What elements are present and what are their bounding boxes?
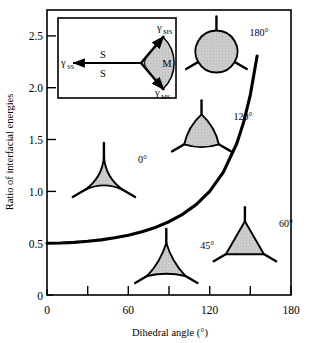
figure-root: 0 0.5 1.0 1.5 2.0 2.5 0 60 120 180 Dihed…: [0, 0, 309, 343]
x-axis-title: Dihedral angle (°): [132, 327, 208, 339]
x-tick-label: 120: [201, 304, 219, 316]
y-tick-label: 2.0: [29, 82, 44, 94]
x-axis-ticks: [47, 286, 291, 295]
y-tick-label: 1.5: [29, 134, 44, 146]
y-tick-label: 0.5: [29, 238, 44, 250]
x-axis-tick-labels: 0 60 120 180: [44, 304, 300, 316]
y-axis-tick-labels: 0 0.5 1.0 1.5 2.0 2.5: [29, 30, 44, 301]
x-tick-label: 60: [123, 304, 135, 316]
s-upper-label: S: [100, 49, 106, 60]
shape-annotation-120deg: 120°: [172, 100, 252, 151]
x-tick-label: 0: [44, 304, 50, 316]
particle-shape: [184, 114, 219, 147]
x-tick-label: 180: [282, 304, 300, 316]
shape-annotation-label: 120°: [234, 111, 253, 122]
shape-annotation-60deg: 60°: [214, 207, 293, 261]
gamma-ms-upper-subscript: MS: [163, 28, 173, 35]
y-tick-label: 1.0: [29, 186, 44, 198]
inset-diagram: γ SS γ MS γ MS S S M: [58, 18, 176, 100]
shape-annotation-label: 45°: [200, 240, 214, 251]
chart-canvas: 0 0.5 1.0 1.5 2.0 2.5 0 60 120 180 Dihed…: [0, 0, 309, 343]
particle-shape: [195, 30, 237, 72]
particle-shape: [226, 221, 264, 254]
y-tick-label: 2.5: [29, 30, 44, 42]
y-tick-label: 0: [37, 290, 43, 302]
shape-annotation-45deg: 45°: [135, 229, 214, 283]
shape-annotation-0deg: 0°: [73, 143, 147, 197]
shape-annotation-label: 180°: [249, 27, 268, 38]
shape-annotation-label: 60°: [279, 218, 293, 229]
gamma-ss-subscript: SS: [67, 63, 75, 70]
particle-shape: [85, 157, 123, 190]
s-lower-label: S: [100, 68, 106, 79]
gamma-ss-label: γ: [60, 57, 66, 68]
shape-annotation-label: 0°: [138, 154, 147, 165]
y-axis-title: Ratio of interfacial energies: [4, 94, 15, 211]
gamma-ms-lower-subscript: MS: [161, 93, 171, 100]
m-label: M: [162, 58, 172, 69]
y-axis-ticks: [47, 36, 56, 295]
gamma-ms-lower-label: γ: [154, 87, 160, 98]
gamma-ms-upper-label: γ: [156, 22, 162, 33]
particle-shape: [147, 243, 185, 276]
